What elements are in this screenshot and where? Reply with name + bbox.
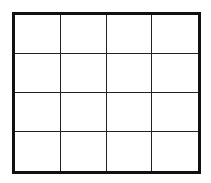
grid-cell <box>61 15 107 54</box>
grid-cell <box>107 93 153 132</box>
grid-cell <box>152 15 198 54</box>
grid-cell <box>152 54 198 93</box>
grid-cell <box>107 132 153 171</box>
grid-cell <box>152 93 198 132</box>
grid-cell <box>107 15 153 54</box>
grid-cell <box>15 54 61 93</box>
grid-cell <box>61 132 107 171</box>
grid-cell <box>61 54 107 93</box>
grid-4x4 <box>12 12 201 174</box>
grid-cell <box>15 93 61 132</box>
grid-cell <box>107 54 153 93</box>
grid-cell <box>15 15 61 54</box>
grid-cell <box>152 132 198 171</box>
grid-cell <box>15 132 61 171</box>
grid-cell <box>61 93 107 132</box>
